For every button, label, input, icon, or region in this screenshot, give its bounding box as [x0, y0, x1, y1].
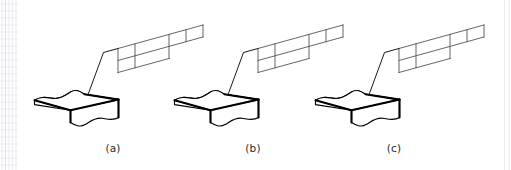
slab-specimen [316, 90, 400, 126]
panel-caption-a: (a) [105, 142, 120, 154]
panel-c: (c) [316, 25, 485, 154]
mesh-detail-grid [258, 25, 343, 73]
panel-caption-b: (b) [245, 142, 260, 154]
panel-a: (a) [35, 25, 204, 154]
panel-caption-c: (c) [387, 142, 402, 154]
figure-canvas: (a) [0, 0, 511, 170]
figure-container: (a) [0, 0, 511, 170]
mesh-detail-grid [118, 25, 203, 73]
slab-specimen [35, 90, 119, 126]
mesh-detail-grid [399, 25, 484, 73]
slab-specimen [175, 90, 259, 126]
panel-b: (b) [175, 25, 344, 154]
